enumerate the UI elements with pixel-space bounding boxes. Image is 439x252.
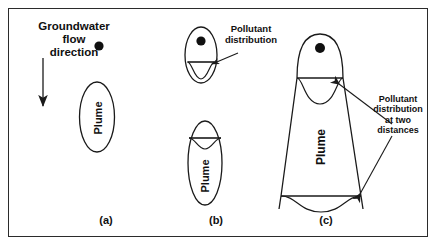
source-dot-c	[315, 43, 325, 53]
source-dot-b	[196, 36, 205, 45]
plume-label-c: Plume	[314, 114, 328, 180]
panel-caption-a: (a)	[86, 214, 126, 226]
distribution-curve-c-near	[297, 78, 343, 104]
callout-arrow-c-far	[360, 136, 392, 194]
cone-side-tail-right	[361, 196, 363, 209]
distribution-curve-b-near	[188, 62, 215, 79]
pollutant-distribution-label-b: Pollutant distribution	[212, 24, 290, 46]
panel-caption-b: (b)	[196, 214, 236, 226]
plume-label-b: Plume	[199, 148, 211, 204]
cone-side-tail-left	[279, 196, 281, 209]
plume-label-a: Plume	[92, 90, 104, 146]
groundwater-flow-direction-label: Groundwater flow direction	[22, 20, 126, 60]
callout-arrow-b	[212, 53, 238, 64]
distribution-curve-c-far	[281, 196, 361, 212]
panel-b-graphics	[185, 27, 238, 205]
panel-caption-c: (c)	[306, 214, 346, 226]
pollutant-distribution-label-c: Pollutant distribution at two distances	[360, 94, 436, 135]
groundwater-plume-figure: Groundwater flow direction Pollutant dis…	[0, 0, 439, 252]
